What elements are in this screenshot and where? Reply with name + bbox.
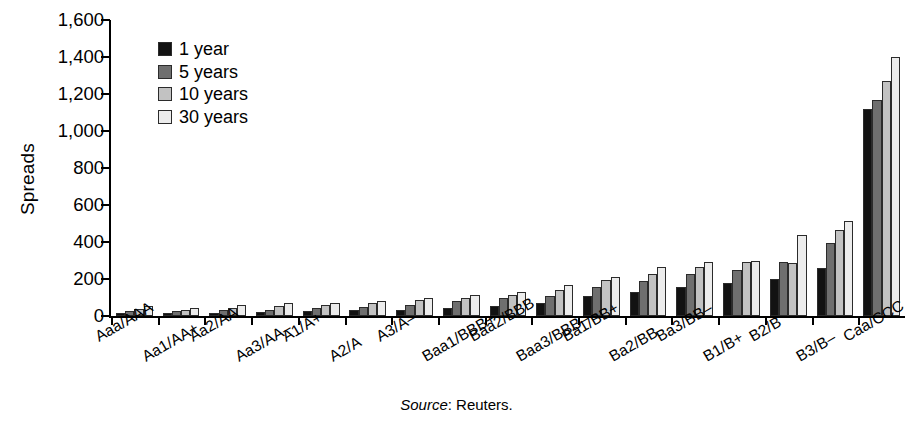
legend-swatch-icon xyxy=(158,65,172,79)
y-axis-tick-mark xyxy=(101,56,110,58)
x-axis-tick-mark xyxy=(158,318,160,325)
legend-swatch-icon xyxy=(158,42,172,56)
x-axis-tick-label: B3/B– xyxy=(793,329,839,366)
x-axis-tick-label: B1/B+ xyxy=(700,328,746,365)
x-axis-tick-mark xyxy=(111,318,113,325)
x-axis-tick-label: A2/A xyxy=(326,333,364,366)
x-axis-tick-mark xyxy=(765,318,767,325)
x-axis-tick-labels: Aaa/AAAAa1/AA+Aa2/AAAa3/AA–A1/A+A2/AA3/A… xyxy=(0,0,913,422)
x-axis-tick-mark xyxy=(391,318,393,325)
legend-item: 30 years xyxy=(158,106,248,129)
x-axis-tick-mark xyxy=(531,318,533,325)
y-axis-tick-mark xyxy=(101,167,110,169)
y-axis-tick-mark xyxy=(101,241,110,243)
source-note-label: Source xyxy=(400,396,448,413)
x-axis-tick-mark xyxy=(485,318,487,325)
x-axis-tick-label: Aa2/AA xyxy=(186,303,241,345)
x-axis-tick-mark xyxy=(298,318,300,325)
x-axis-tick-mark xyxy=(578,318,580,325)
x-axis-tick-label: Ba3/BB– xyxy=(653,299,716,346)
y-axis-tick-mark xyxy=(101,278,110,280)
y-axis-tick-mark xyxy=(101,315,110,317)
y-axis-tick-mark xyxy=(101,130,110,132)
legend-item: 10 years xyxy=(158,83,248,106)
legend-item: 5 years xyxy=(158,61,248,84)
legend-label: 10 years xyxy=(179,85,248,103)
legend-label: 30 years xyxy=(179,108,248,126)
x-axis-tick-mark xyxy=(671,318,673,325)
bond-spreads-bar-chart: Spreads 02004006008001,0001,2001,4001,60… xyxy=(0,0,913,422)
legend-swatch-icon xyxy=(158,87,172,101)
x-axis-tick-label: Aaa/AAA xyxy=(92,298,156,345)
x-axis-tick-mark xyxy=(718,318,720,325)
x-axis-tick-mark xyxy=(345,318,347,325)
x-axis-tick-mark xyxy=(858,318,860,325)
legend-label: 5 years xyxy=(179,63,238,81)
x-axis-tick-mark xyxy=(251,318,253,325)
y-axis-tick-mark xyxy=(101,204,110,206)
source-note-value: : Reuters. xyxy=(448,396,513,413)
legend-label: 1 year xyxy=(179,40,229,58)
x-axis-tick-label: A1/A+ xyxy=(279,308,325,345)
legend-swatch-icon xyxy=(158,110,172,124)
x-axis-tick-label: Caa/CCC xyxy=(840,296,907,345)
source-note: Source: Reuters. xyxy=(0,396,913,413)
chart-legend: 1 year5 years10 years30 years xyxy=(158,38,248,128)
x-axis-tick-mark xyxy=(812,318,814,325)
y-axis-tick-mark xyxy=(101,93,110,95)
y-axis-tick-mark xyxy=(101,19,110,21)
x-axis-tick-label: A3/A– xyxy=(373,309,419,346)
x-axis-tick-mark xyxy=(204,318,206,325)
legend-item: 1 year xyxy=(158,38,248,61)
x-axis-tick-mark xyxy=(438,318,440,325)
x-axis-tick-mark xyxy=(625,318,627,325)
